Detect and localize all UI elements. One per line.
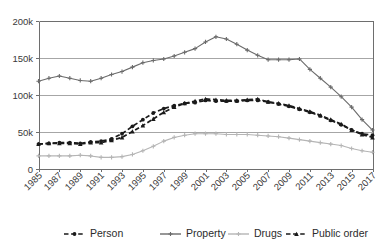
ytick-label-150k: 150k: [12, 53, 33, 64]
legend-swatch-marker-1: [168, 232, 172, 236]
datapoint-drugs-2014: [339, 143, 343, 147]
datapoint-property-1991: [99, 76, 103, 80]
xtick-label-1999: 1999: [167, 170, 190, 193]
data-series: [36, 35, 375, 160]
datapoint-property-2002: [214, 35, 218, 39]
datapoint-property-2004: [235, 42, 239, 46]
line-chart: 050k100k150k200k 19851987198919911993199…: [0, 0, 384, 251]
datapoint-property-1995: [141, 61, 145, 65]
xtick-label-2017: 2017: [355, 170, 378, 193]
xtick-label-2003: 2003: [208, 170, 231, 193]
datapoint-property-2006: [256, 53, 260, 57]
datapoint-drugs-1987: [57, 154, 61, 158]
xtick-label-2009: 2009: [271, 170, 294, 193]
y-axis-tick-labels: 050k100k150k200k: [12, 16, 33, 175]
datapoint-drugs-2012: [318, 141, 322, 145]
legend-item-public-order[interactable]: Public order: [286, 227, 369, 239]
datapoint-drugs-1993: [120, 155, 124, 159]
ytick-label-50k: 50k: [18, 127, 34, 138]
legend-label-1: Property: [186, 227, 226, 239]
datapoint-property-1989: [78, 78, 82, 82]
legend-item-property[interactable]: Property: [160, 227, 226, 239]
datapoint-drugs-1991: [99, 155, 103, 159]
chart-container: 050k100k150k200k 19851987198919911993199…: [0, 0, 384, 251]
xtick-label-1985: 1985: [21, 170, 44, 193]
datapoint-property-1990: [89, 79, 93, 83]
legend-label-3: Public order: [312, 227, 369, 239]
datapoint-drugs-1989: [78, 153, 82, 157]
x-axis-tick-labels: 1985198719891991199319951997199920012003…: [21, 170, 378, 193]
datapoint-property-1994: [130, 65, 134, 69]
datapoint-drugs-2015: [350, 146, 354, 150]
datapoint-property-1986: [47, 76, 51, 80]
xtick-label-1989: 1989: [62, 170, 85, 193]
datapoint-property-2005: [245, 48, 249, 52]
datapoint-property-1987: [57, 74, 61, 78]
series-person: [37, 99, 375, 146]
y-axis-ticks: [36, 22, 39, 170]
datapoint-person-1993: [120, 132, 124, 136]
datapoint-drugs-1999: [183, 133, 187, 137]
ytick-label-200k: 200k: [12, 16, 33, 27]
datapoint-drugs-1995: [141, 149, 145, 153]
datapoint-drugs-1988: [68, 154, 72, 158]
series-line-public-order: [39, 99, 373, 144]
datapoint-drugs-1990: [89, 154, 93, 158]
datapoint-drugs-1997: [162, 139, 166, 143]
legend-label-2: Drugs: [254, 227, 282, 239]
series-line-drugs: [39, 134, 373, 158]
datapoint-property-1992: [109, 72, 113, 76]
xtick-label-2013: 2013: [313, 170, 336, 193]
xtick-label-1991: 1991: [83, 170, 106, 193]
datapoint-drugs-1996: [151, 144, 155, 148]
xtick-label-2001: 2001: [188, 170, 211, 193]
xtick-label-1987: 1987: [41, 170, 64, 193]
datapoint-drugs-2010: [297, 138, 301, 142]
legend-swatch-marker-0: [73, 232, 77, 236]
xtick-label-2007: 2007: [250, 170, 273, 193]
datapoint-drugs-2006: [256, 133, 260, 137]
datapoint-drugs-2009: [287, 136, 291, 140]
ytick-label-100k: 100k: [12, 90, 33, 101]
xtick-label-2011: 2011: [293, 170, 315, 192]
datapoint-drugs-2013: [329, 142, 333, 146]
datapoint-drugs-2007: [266, 134, 270, 138]
datapoint-drugs-1986: [47, 154, 51, 158]
datapoint-property-1993: [120, 69, 124, 73]
chart-legend: PersonPropertyDrugsPublic order: [64, 227, 369, 239]
legend-item-drugs[interactable]: Drugs: [228, 227, 282, 239]
datapoint-drugs-2011: [308, 139, 312, 143]
xtick-label-2015: 2015: [334, 170, 357, 193]
series-drugs: [36, 132, 374, 160]
datapoint-drugs-2008: [276, 135, 280, 139]
legend-label-0: Person: [90, 227, 123, 239]
xtick-label-1997: 1997: [146, 170, 169, 193]
datapoint-property-1999: [183, 50, 187, 54]
legend-item-person[interactable]: Person: [64, 227, 123, 239]
datapoint-property-1997: [162, 57, 166, 61]
datapoint-property-1998: [172, 54, 176, 58]
series-public-order: [36, 97, 375, 146]
datapoint-person-1996: [151, 111, 155, 115]
legend-swatch-marker-2: [236, 232, 240, 236]
datapoint-property-1988: [68, 76, 72, 80]
datapoint-property-2003: [224, 37, 228, 41]
datapoint-person-1994: [131, 124, 135, 128]
datapoint-public-order-1994: [130, 129, 135, 133]
datapoint-drugs-1994: [130, 152, 134, 156]
datapoint-person-1997: [162, 107, 166, 111]
gridlines: [39, 22, 373, 133]
series-line-person: [39, 100, 373, 144]
xtick-label-1993: 1993: [104, 170, 127, 193]
xtick-label-2005: 2005: [229, 170, 252, 193]
datapoint-drugs-1992: [109, 155, 113, 159]
datapoint-person-1995: [141, 118, 145, 122]
xtick-label-1995: 1995: [125, 170, 148, 193]
datapoint-drugs-2016: [360, 149, 364, 153]
datapoint-drugs-1998: [172, 135, 176, 139]
